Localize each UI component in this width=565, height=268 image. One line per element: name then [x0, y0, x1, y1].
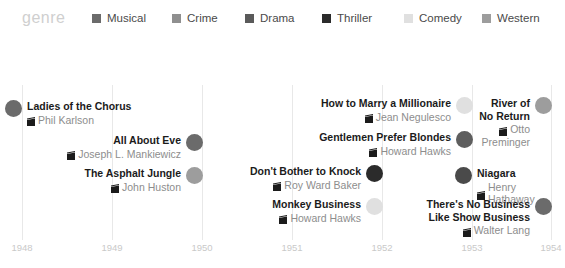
legend-item-thriller[interactable]: Thriller [322, 12, 372, 24]
film-entry[interactable]: There's No Business Like Show BusinessWa… [0, 198, 552, 237]
axis-tick-label: 1954 [540, 242, 561, 253]
timeline-plot: 1948194919501951195219531954Ladies of th… [0, 34, 565, 268]
square-swatch-icon [322, 14, 331, 23]
film-title: River of No Return [479, 97, 530, 122]
legend-item-label: Western [497, 12, 540, 24]
axis-tick-label: 1949 [101, 242, 122, 253]
legend-item-drama[interactable]: Drama [245, 12, 295, 24]
film-director-name: Walter Lang [474, 224, 530, 237]
clapperboard-icon [369, 147, 377, 156]
legend-item-musical[interactable]: Musical [92, 12, 146, 24]
film-title: There's No Business Like Show Business [427, 198, 530, 223]
legend-item-label: Drama [260, 12, 295, 24]
legend-item-label: Comedy [419, 12, 462, 24]
film-label-group: River of No ReturnOttoPreminger [479, 97, 530, 148]
square-swatch-icon [92, 14, 101, 23]
film-director: Roy Ward Baker [250, 179, 361, 192]
square-swatch-icon [404, 14, 413, 23]
clapperboard-icon [499, 126, 507, 135]
axis-tick-label: 1953 [461, 242, 482, 253]
clapperboard-icon [273, 181, 281, 190]
legend-item-comedy[interactable]: Comedy [404, 12, 462, 24]
film-title: Niagara [477, 167, 565, 180]
film-title: Don't Bother to Knock [250, 165, 361, 178]
legend-item-label: Thriller [337, 12, 372, 24]
film-director: OttoPreminger [479, 123, 530, 148]
film-director: Walter Lang [427, 224, 530, 237]
axis-tick-label: 1952 [371, 242, 392, 253]
film-director-name: Roy Ward Baker [284, 179, 361, 192]
legend-item-western[interactable]: Western [482, 12, 540, 24]
axis-tick-label: 1950 [191, 242, 212, 253]
film-entry[interactable]: Don't Bother to KnockRoy Ward Baker [0, 165, 383, 191]
legend-item-crime[interactable]: Crime [172, 12, 218, 24]
film-label-group: There's No Business Like Show BusinessWa… [427, 198, 530, 237]
axis-tick-label: 1951 [281, 242, 302, 253]
legend-item-label: Crime [187, 12, 218, 24]
genre-dot[interactable] [455, 167, 472, 184]
genre-dot[interactable] [535, 198, 552, 215]
axis-tick-label: 1948 [11, 242, 32, 253]
film-label-group: Don't Bother to KnockRoy Ward Baker [250, 165, 361, 191]
genre-dot[interactable] [366, 165, 383, 182]
square-swatch-icon [172, 14, 181, 23]
genre-dot[interactable] [535, 97, 552, 114]
legend-title: genre [22, 9, 65, 27]
legend-bar: genre MusicalCrimeDramaThrillerComedyWes… [0, 0, 565, 34]
clapperboard-icon [463, 227, 471, 236]
film-director-name: Otto [510, 123, 530, 136]
film-entry[interactable]: River of No ReturnOttoPreminger [0, 97, 552, 148]
square-swatch-icon [245, 14, 254, 23]
legend-item-label: Musical [107, 12, 146, 24]
film-director-name-cont: Preminger [479, 136, 530, 149]
square-swatch-icon [482, 14, 491, 23]
